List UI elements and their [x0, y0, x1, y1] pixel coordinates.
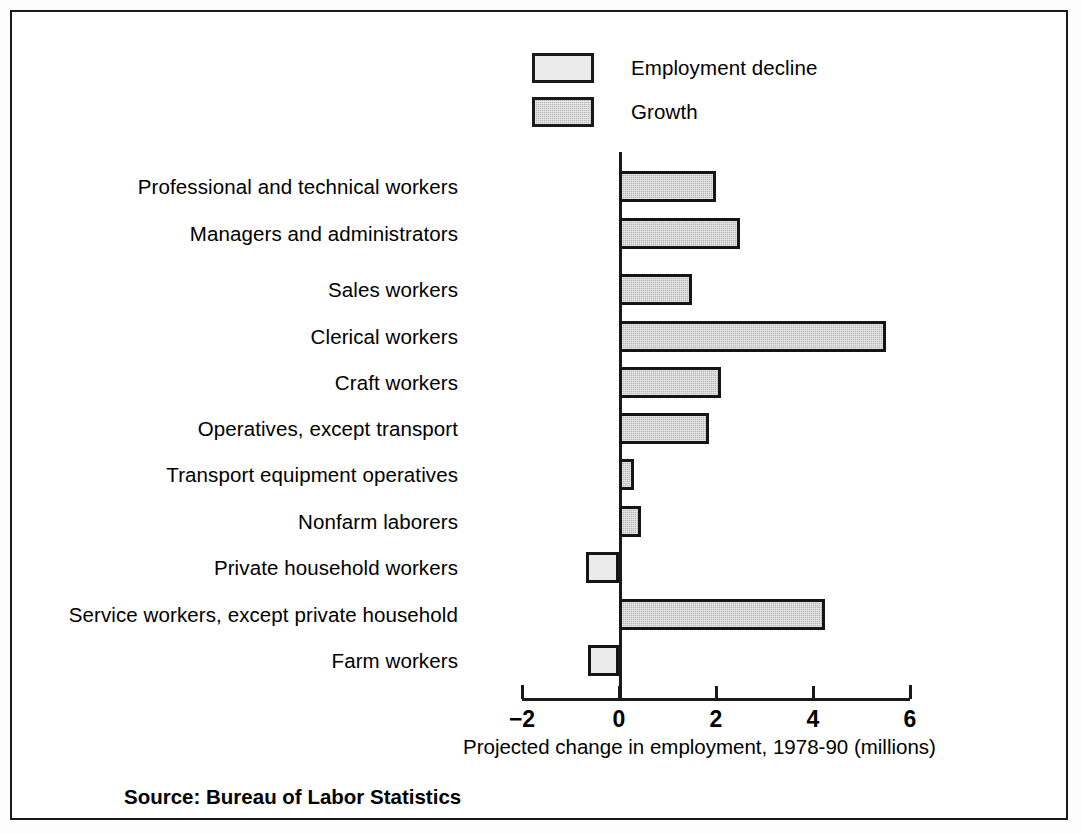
bar-decline: [586, 552, 619, 583]
bar-growth: [619, 459, 634, 490]
category-label: Sales workers: [328, 278, 458, 302]
bar-growth: [619, 218, 740, 249]
category-label: Transport equipment operatives: [166, 463, 458, 487]
bar-row: Managers and administrators: [12, 218, 1070, 249]
bar-growth: [619, 413, 709, 444]
x-tick-neg2: [521, 685, 524, 699]
bar-growth: [619, 321, 886, 352]
category-label: Private household workers: [214, 556, 458, 580]
bar-growth: [619, 599, 825, 630]
category-label: Service workers, except private househol…: [69, 603, 458, 627]
bar-decline: [588, 645, 619, 676]
x-tick-2: [715, 686, 718, 699]
bar-row: Farm workers: [12, 645, 1070, 676]
bar-row: Professional and technical workers: [12, 171, 1070, 202]
figure-canvas: Employment decline Growth −20246 Profess…: [0, 0, 1082, 833]
category-label: Craft workers: [335, 371, 458, 395]
category-label: Professional and technical workers: [138, 175, 458, 199]
category-label: Clerical workers: [311, 325, 458, 349]
bar-growth: [619, 367, 721, 398]
bar-row: Sales workers: [12, 274, 1070, 305]
bar-row: Service workers, except private househol…: [12, 599, 1070, 630]
x-tick-label-2: 2: [710, 706, 723, 733]
x-tick-4: [812, 686, 815, 699]
bar-row: Private household workers: [12, 552, 1070, 583]
category-label: Operatives, except transport: [198, 417, 458, 441]
bar-growth: [619, 171, 716, 202]
bar-row: Operatives, except transport: [12, 413, 1070, 444]
x-tick-label-0: 0: [613, 706, 626, 733]
x-tick-6: [909, 685, 912, 699]
category-label: Nonfarm laborers: [298, 510, 458, 534]
x-tick-0: [618, 686, 621, 699]
bar-growth: [619, 506, 641, 537]
bar-growth: [619, 274, 692, 305]
bar-row: Clerical workers: [12, 321, 1070, 352]
bar-row: Craft workers: [12, 367, 1070, 398]
x-tick-label-4: 4: [807, 706, 820, 733]
bar-row: Nonfarm laborers: [12, 506, 1070, 537]
category-label: Farm workers: [332, 649, 458, 673]
category-label: Managers and administrators: [190, 222, 458, 246]
plot-area: −20246 Professional and technical worker…: [12, 12, 1070, 822]
source-note: Source: Bureau of Labor Statistics: [124, 785, 461, 809]
x-axis-title: Projected change in employment, 1978-90 …: [463, 735, 936, 759]
chart-frame: Employment decline Growth −20246 Profess…: [10, 10, 1068, 820]
bar-row: Transport equipment operatives: [12, 459, 1070, 490]
x-tick-label-6: 6: [904, 706, 917, 733]
x-tick-label-neg2: −2: [509, 706, 535, 733]
